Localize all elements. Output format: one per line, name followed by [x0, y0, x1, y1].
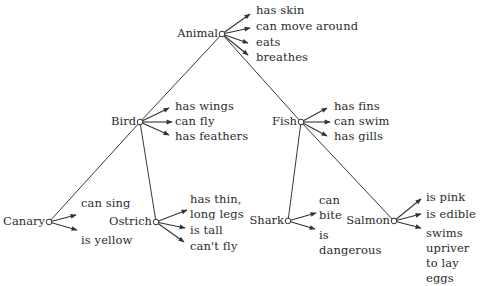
- property-label: has wings: [175, 100, 234, 113]
- property-label: has feathers: [175, 130, 248, 143]
- arrow-icon: [301, 122, 327, 136]
- property-label: is pink: [426, 191, 465, 204]
- arrow-icon: [49, 215, 76, 222]
- node-ostrich-circle: [153, 219, 159, 225]
- property-label: is dangerous: [319, 228, 381, 258]
- property-label: has skin: [256, 4, 305, 17]
- property-label: can fly: [175, 115, 215, 128]
- arrow-icon: [222, 34, 248, 55]
- node-salmon-circle: [391, 218, 397, 224]
- property-label: is tall: [190, 224, 223, 237]
- property-label: swims upriver to lay eggs: [426, 226, 469, 286]
- edge-fish-shark: [288, 122, 301, 221]
- property-label: eats: [256, 36, 281, 49]
- edge-bird-ostrich: [140, 122, 156, 222]
- node-bird-circle: [137, 119, 143, 125]
- hierarchy-diagram: [0, 0, 480, 286]
- node-canary-circle: [46, 219, 52, 225]
- arrow-icon: [301, 108, 327, 122]
- property-label: can move around: [256, 20, 358, 33]
- property-label: is edible: [426, 208, 476, 221]
- node-ostrich-label: Ostrich: [100, 215, 152, 228]
- property-label: is yellow: [81, 234, 133, 247]
- arrow-icon: [288, 213, 316, 221]
- property-label: has fins: [334, 100, 380, 113]
- node-fish-circle: [298, 119, 304, 125]
- property-label: can bite: [319, 193, 342, 223]
- node-shark-label: Shark: [240, 214, 284, 227]
- arrow-icon: [140, 122, 169, 135]
- property-label: can swim: [334, 115, 390, 128]
- property-label: can't fly: [190, 240, 237, 253]
- node-fish-label: Fish: [255, 115, 297, 128]
- node-bird-label: Bird: [96, 115, 136, 128]
- node-animal-label: Animal: [164, 27, 218, 40]
- property-label: breathes: [256, 51, 308, 64]
- arrow-icon: [156, 210, 187, 222]
- node-animal-circle: [219, 31, 225, 37]
- property-label: has thin, long legs: [190, 192, 244, 222]
- arrow-icon: [49, 222, 77, 230]
- node-canary-label: Canary: [0, 215, 45, 228]
- node-salmon-label: Salmon: [336, 214, 390, 227]
- node-shark-circle: [285, 218, 291, 224]
- property-label: can sing: [81, 197, 131, 210]
- arrow-icon: [140, 108, 169, 122]
- arrow-icon: [394, 221, 421, 228]
- arrow-icon: [288, 221, 315, 229]
- property-label: has gills: [334, 130, 383, 143]
